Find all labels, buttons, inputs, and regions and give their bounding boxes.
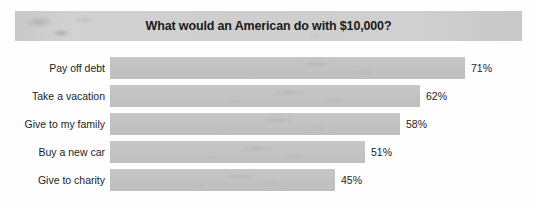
chart-title-banner: What would an American do with $10,000? [15,11,522,41]
bar-value-label: 58% [406,113,427,135]
bar-chart-figure: What would an American do with $10,000? … [0,0,538,205]
bar-track: 71% [110,57,538,79]
bar-row: Buy a new car51% [0,141,538,163]
bar-fill [110,141,365,163]
bar-row: Give to my family58% [0,113,538,135]
bar-fill [110,85,420,107]
bar-category-label: Take a vacation [0,85,105,107]
bar-row: Pay off debt71% [0,57,538,79]
bar-value-label: 45% [341,169,362,191]
bar-track: 62% [110,85,538,107]
bar-fill [110,57,465,79]
bar-category-label: Give to my family [0,113,105,135]
bar-value-label: 51% [371,141,392,163]
bar-value-label: 62% [426,85,447,107]
bar-track: 58% [110,113,538,135]
bar-track: 45% [110,169,538,191]
bar-fill [110,169,335,191]
bar-row: Take a vacation62% [0,85,538,107]
bar-category-label: Pay off debt [0,57,105,79]
chart-title: What would an American do with $10,000? [146,19,392,33]
bar-category-label: Give to charity [0,169,105,191]
bar-category-label: Buy a new car [0,141,105,163]
bar-track: 51% [110,141,538,163]
chart-plot-area: Pay off debt71%Take a vacation62%Give to… [0,50,538,200]
bar-row: Give to charity45% [0,169,538,191]
bar-value-label: 71% [471,57,492,79]
bar-fill [110,113,400,135]
